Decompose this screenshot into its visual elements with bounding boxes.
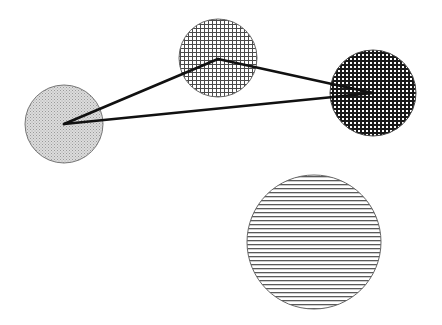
edge-c-a bbox=[64, 93, 373, 124]
node-layer bbox=[25, 19, 416, 309]
diagram-canvas bbox=[0, 0, 442, 325]
circle-node-d bbox=[247, 175, 381, 309]
edge-a-b bbox=[64, 59, 218, 124]
diagram-svg bbox=[0, 0, 442, 325]
